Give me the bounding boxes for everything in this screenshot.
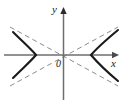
y-axis-label: y: [51, 3, 57, 15]
hyperbola-plot: y x 0: [0, 0, 126, 103]
x-axis-label: x: [110, 57, 116, 69]
origin-label: 0: [56, 58, 61, 69]
hyperbola-figure: y x 0: [0, 0, 126, 103]
